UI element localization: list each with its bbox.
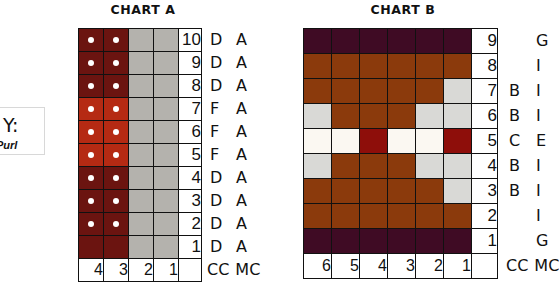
chart-row: 4 bbox=[79, 167, 202, 190]
stitch-cell bbox=[332, 179, 360, 204]
stitch-cell bbox=[104, 167, 129, 190]
stitch-cell bbox=[388, 129, 416, 154]
stitch-cell bbox=[129, 75, 154, 98]
purl-dot-icon bbox=[113, 37, 119, 43]
stitch-cell bbox=[388, 154, 416, 179]
stitch-number: 4 bbox=[360, 254, 388, 279]
stitch-cell bbox=[332, 129, 360, 154]
mc-color-label: A bbox=[236, 237, 247, 256]
stitch-cell bbox=[332, 54, 360, 79]
stitch-cell bbox=[129, 167, 154, 190]
chart-row: 6 bbox=[304, 104, 498, 129]
chart-b-grid: 987654321654321 bbox=[303, 28, 498, 279]
stitch-cell bbox=[388, 79, 416, 104]
cc-color-label: F bbox=[210, 122, 219, 141]
stitch-cell bbox=[104, 121, 129, 144]
chart-row: 2 bbox=[304, 204, 498, 229]
stitch-number: 4 bbox=[79, 259, 104, 282]
mc-color-label: E bbox=[536, 131, 546, 150]
stitch-cell bbox=[360, 204, 388, 229]
stitch-number: 3 bbox=[388, 254, 416, 279]
mc-color-label: I bbox=[536, 206, 541, 225]
stitch-number: 1 bbox=[154, 259, 179, 282]
purl-dot-icon bbox=[113, 221, 119, 227]
chart-row: 7 bbox=[304, 79, 498, 104]
purl-dot-icon bbox=[88, 106, 94, 112]
stitch-cell bbox=[129, 144, 154, 167]
stitch-number: 6 bbox=[304, 254, 332, 279]
stitch-cell bbox=[154, 167, 179, 190]
mc-color-label: A bbox=[236, 30, 247, 49]
stitch-cell bbox=[129, 29, 154, 52]
stitch-cell bbox=[332, 29, 360, 54]
stitch-cell bbox=[104, 190, 129, 213]
stitch-cell bbox=[444, 29, 472, 54]
stitch-cell bbox=[104, 144, 129, 167]
stitch-cell bbox=[444, 204, 472, 229]
stitch-cell bbox=[332, 229, 360, 254]
chart-row: 2 bbox=[79, 213, 202, 236]
cc-color-label: D bbox=[210, 191, 222, 210]
mc-color-label: A bbox=[236, 53, 247, 72]
stitch-cell bbox=[416, 229, 444, 254]
cc-color-label: D bbox=[210, 168, 222, 187]
row-number: 7 bbox=[179, 98, 202, 121]
stitch-cell bbox=[104, 75, 129, 98]
chart-row: 7 bbox=[79, 98, 202, 121]
stitch-cell bbox=[79, 52, 104, 75]
stitch-cell bbox=[360, 154, 388, 179]
purl-dot-icon bbox=[88, 221, 94, 227]
stitch-cell bbox=[360, 54, 388, 79]
row-number: 1 bbox=[179, 236, 202, 259]
stitch-cell bbox=[79, 213, 104, 236]
stitch-number bbox=[472, 254, 498, 279]
stitch-cell bbox=[416, 29, 444, 54]
row-number: 7 bbox=[472, 79, 498, 104]
chart-row: 3 bbox=[79, 190, 202, 213]
stitch-cell bbox=[360, 29, 388, 54]
mc-color-label: I bbox=[536, 81, 541, 100]
stitch-cell bbox=[154, 121, 179, 144]
stitch-cell bbox=[304, 154, 332, 179]
chart-row: 10 bbox=[79, 29, 202, 52]
stitch-cell bbox=[154, 52, 179, 75]
stitch-cell bbox=[304, 104, 332, 129]
mc-header: MC bbox=[235, 260, 260, 279]
row-number: 3 bbox=[472, 179, 498, 204]
row-number: 3 bbox=[179, 190, 202, 213]
stitch-cell bbox=[129, 236, 154, 259]
cc-header: CC bbox=[506, 256, 528, 275]
stitch-cell bbox=[79, 98, 104, 121]
mc-color-label: G bbox=[536, 231, 548, 250]
stitch-cell bbox=[332, 79, 360, 104]
row-number: 1 bbox=[472, 229, 498, 254]
row-number: 2 bbox=[472, 204, 498, 229]
stitch-number: 3 bbox=[104, 259, 129, 282]
chart-row: 4 bbox=[304, 154, 498, 179]
chart-row: 5 bbox=[79, 144, 202, 167]
stitch-cell bbox=[129, 98, 154, 121]
purl-dot-icon bbox=[88, 37, 94, 43]
stitch-cell bbox=[79, 75, 104, 98]
stitch-cell bbox=[154, 190, 179, 213]
cc-color-label: B bbox=[509, 156, 520, 175]
row-number: 8 bbox=[179, 75, 202, 98]
chart-a-grid: 109876543214321 bbox=[78, 28, 202, 282]
chart-row: 1 bbox=[79, 236, 202, 259]
row-number: 6 bbox=[179, 121, 202, 144]
stitch-cell bbox=[416, 54, 444, 79]
purl-dot-icon bbox=[113, 106, 119, 112]
stitch-cell bbox=[104, 236, 129, 259]
chart-a-title: CHART A bbox=[78, 2, 208, 17]
cc-color-label: B bbox=[509, 81, 520, 100]
stitch-cell bbox=[304, 79, 332, 104]
chart-row: 5 bbox=[304, 129, 498, 154]
stitch-cell bbox=[444, 104, 472, 129]
stitch-cell bbox=[154, 75, 179, 98]
stitch-cell bbox=[360, 129, 388, 154]
row-number: 9 bbox=[179, 52, 202, 75]
stitch-cell bbox=[79, 121, 104, 144]
mc-color-label: I bbox=[536, 56, 541, 75]
mc-color-label: I bbox=[536, 156, 541, 175]
mc-color-label: A bbox=[236, 191, 247, 210]
